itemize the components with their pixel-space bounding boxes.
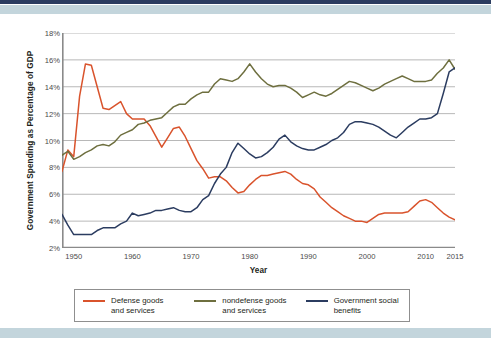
figure-page: Government Spending as Percentage of GDP…: [0, 0, 491, 338]
legend-label-defense-goods-and-services: Defense goods and services: [111, 296, 163, 315]
bottom-light-band: [0, 328, 491, 338]
legend-label-government-social-benefits: Government social benefits: [334, 296, 399, 315]
x-axis-tick-label: 1990: [300, 252, 317, 261]
x-axis-tick-label: 1970: [183, 252, 200, 261]
legend-swatch-defense-goods-and-services: [83, 300, 105, 302]
legend-item-government-social-benefits[interactable]: Government social benefits: [298, 296, 409, 315]
y-axis-tick-label: 18%: [45, 29, 60, 38]
y-axis-tick-label: 2%: [49, 244, 60, 253]
top-light-band: [0, 5, 491, 14]
y-axis-tick-label: 14%: [45, 82, 60, 91]
plot-area: [62, 33, 455, 248]
legend-label-nondefense-goods-and-services: nondefense goods and services: [222, 296, 286, 315]
series-line-defense-goods-and-services: [62, 64, 455, 223]
y-axis-tick-labels: 2%4%6%8%10%12%14%16%18%: [36, 33, 60, 248]
chart-figure: Government Spending as Percentage of GDP…: [0, 16, 491, 326]
y-axis-title: Government Spending as Percentage of GDP: [26, 36, 35, 246]
series-line-nondefense-goods-and-services: [62, 60, 455, 159]
x-axis-tick-label: 2010: [417, 252, 434, 261]
top-dark-band: [0, 0, 491, 4]
y-axis-tick-label: 8%: [49, 163, 60, 172]
y-axis-tick-label: 16%: [45, 55, 60, 64]
y-axis-tick-label: 6%: [49, 190, 60, 199]
chart-legend: Defense goods and servicesnondefense goo…: [74, 289, 410, 322]
x-axis-tick-label: 1980: [241, 252, 258, 261]
x-axis-title: Year: [62, 266, 455, 275]
x-axis-tick-label: 2015: [447, 252, 464, 261]
line-chart-svg: [62, 33, 455, 248]
series-line-government-social-benefits: [62, 68, 455, 235]
x-axis-tick-label: 1960: [124, 252, 141, 261]
x-axis-tick-label: 2000: [359, 252, 376, 261]
x-axis-tick-label: 1950: [65, 252, 82, 261]
y-axis-tick-label: 12%: [45, 109, 60, 118]
x-axis-tick-labels: 19501960197019801990200020102015: [62, 252, 455, 266]
legend-item-nondefense-goods-and-services[interactable]: nondefense goods and services: [186, 296, 297, 315]
legend-item-defense-goods-and-services[interactable]: Defense goods and services: [75, 296, 186, 315]
y-axis-tick-label: 4%: [49, 217, 60, 226]
y-axis-tick-label: 10%: [45, 136, 60, 145]
legend-swatch-nondefense-goods-and-services: [194, 300, 216, 302]
legend-swatch-government-social-benefits: [306, 300, 328, 302]
